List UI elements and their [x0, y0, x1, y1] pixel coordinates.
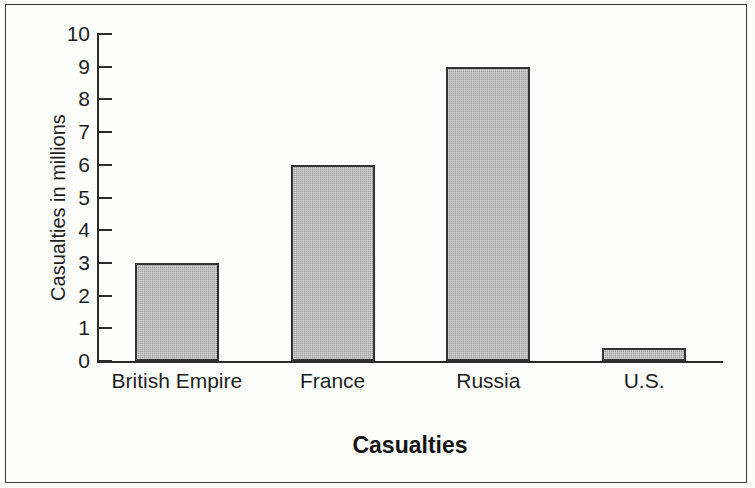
- y-axis-tick: [99, 229, 112, 231]
- x-axis-category-label: France: [255, 368, 411, 395]
- x-axis-title: Casualties: [97, 432, 723, 459]
- x-axis-line: [97, 361, 723, 363]
- y-axis-title: Casualties in millions: [47, 58, 70, 358]
- x-axis-category-label: U.S.: [566, 368, 722, 395]
- y-axis-tick: [99, 295, 112, 297]
- y-axis-tick: [99, 164, 112, 166]
- y-axis-tick: [99, 262, 112, 264]
- x-axis-category-label: Russia: [411, 368, 567, 395]
- y-axis-tick: [99, 66, 112, 68]
- y-axis-tick: [99, 197, 112, 199]
- y-axis-tick: [99, 131, 112, 133]
- bar: [291, 165, 375, 361]
- plot-area: 012345678910 Casualties in millions Brit…: [0, 0, 755, 488]
- bar: [135, 263, 219, 361]
- bar: [602, 348, 686, 361]
- y-axis-tick: [99, 360, 112, 362]
- bar: [446, 67, 530, 361]
- y-axis-tick: [99, 33, 112, 35]
- y-axis-tick: [99, 98, 112, 100]
- chart-page: 012345678910 Casualties in millions Brit…: [0, 0, 755, 488]
- y-axis-tick-label: 10: [56, 23, 90, 44]
- x-axis-category-label: British Empire: [99, 368, 255, 395]
- y-axis-tick: [99, 327, 112, 329]
